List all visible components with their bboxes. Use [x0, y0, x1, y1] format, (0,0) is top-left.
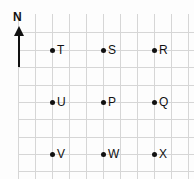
- point-dot-icon: [101, 48, 106, 53]
- grid-horizontal-line: [18, 119, 194, 120]
- point-label: X: [159, 147, 167, 161]
- grid-map: N TSRUPQVWX: [0, 0, 194, 179]
- grid-horizontal-line: [18, 137, 194, 138]
- point-label: U: [57, 95, 66, 109]
- grid-horizontal-line: [18, 85, 194, 86]
- point-label: Q: [159, 95, 168, 109]
- point-dot-icon: [101, 100, 106, 105]
- point-label: P: [108, 95, 116, 109]
- point-dot-icon: [50, 152, 55, 157]
- point-label: R: [159, 43, 168, 57]
- point-dot-icon: [152, 100, 157, 105]
- point-dot-icon: [152, 48, 157, 53]
- grid-horizontal-line: [18, 32, 194, 33]
- point-label: W: [108, 147, 119, 161]
- grid-horizontal-line: [18, 154, 194, 155]
- point-dot-icon: [50, 48, 55, 53]
- point-dot-icon: [101, 152, 106, 157]
- north-arrow-shaft: [18, 36, 20, 67]
- point-label: T: [57, 43, 64, 57]
- point-dot-icon: [152, 152, 157, 157]
- point-dot-icon: [50, 100, 55, 105]
- point-label: V: [57, 147, 65, 161]
- grid-horizontal-line: [18, 67, 194, 68]
- point-label: S: [108, 43, 116, 57]
- grid-horizontal-line: [18, 171, 194, 172]
- north-arrow-icon: [14, 26, 24, 36]
- north-label: N: [13, 10, 22, 24]
